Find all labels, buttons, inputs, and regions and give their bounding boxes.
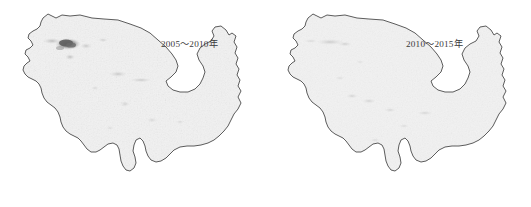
map-panel-2005-2010: 2005～2010年	[0, 0, 266, 207]
figure-container: 2005～2010年	[0, 0, 531, 207]
map-panel-2010-2015: 2010～2015年	[265, 0, 531, 207]
density-layer	[0, 0, 266, 207]
panel-label-2005-2010: 2005～2010年	[161, 40, 218, 49]
density-layer	[265, 0, 531, 207]
map-graphic-2005-2010	[0, 0, 266, 207]
panel-label-2010-2015: 2010～2015年	[406, 40, 463, 49]
map-graphic-2010-2015	[265, 0, 531, 207]
